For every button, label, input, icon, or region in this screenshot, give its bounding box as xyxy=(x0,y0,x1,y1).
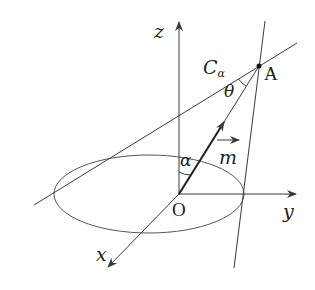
origin-label: O xyxy=(172,200,186,219)
cone-label: Cα xyxy=(203,58,225,79)
point-a-dot xyxy=(257,64,262,69)
vector-m-label: m xyxy=(219,148,237,167)
cone-label-sub: α xyxy=(218,67,225,80)
x-axis xyxy=(108,194,179,267)
y-axis-label: y xyxy=(283,202,294,221)
cone-label-main: C xyxy=(203,56,218,78)
cone-diagram: z y x O A Cα θ α m xyxy=(0,0,315,290)
theta-label: θ xyxy=(224,83,234,100)
point-a-label: A xyxy=(264,64,278,83)
theta-arc xyxy=(239,79,247,86)
tangent-line-2 xyxy=(234,21,265,268)
alpha-arc xyxy=(179,172,191,175)
x-axis-label: x xyxy=(96,245,107,264)
diagram-canvas xyxy=(0,0,315,290)
z-axis-label: z xyxy=(154,22,164,41)
alpha-label: α xyxy=(180,152,191,169)
